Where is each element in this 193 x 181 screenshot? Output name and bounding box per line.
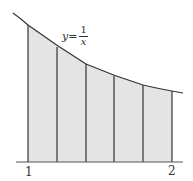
shaded-region — [28, 25, 172, 162]
eq-fraction: 1 x — [79, 25, 87, 47]
eq-equals: = — [68, 30, 77, 43]
x-label-1: 1 — [25, 166, 33, 178]
riemann-diagram — [0, 0, 193, 181]
x-label-2: 2 — [168, 165, 176, 177]
equation-label: y = 1 x — [62, 25, 88, 47]
eq-numerator: 1 — [79, 25, 87, 37]
eq-denominator: x — [81, 37, 87, 48]
